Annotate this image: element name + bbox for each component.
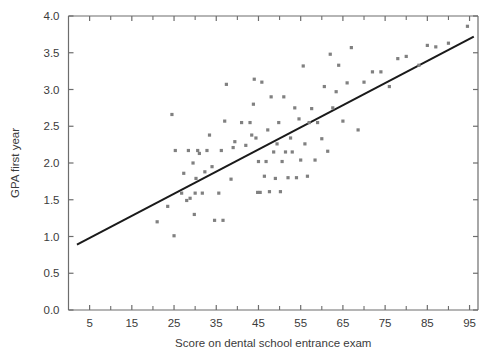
- data-point: [174, 149, 177, 152]
- data-point: [260, 81, 263, 84]
- y-tick-label: 1.0: [44, 231, 60, 243]
- data-point: [250, 133, 253, 136]
- data-point: [185, 199, 188, 202]
- data-point: [286, 176, 289, 179]
- y-tick-label: 2.0: [44, 157, 60, 169]
- data-point: [337, 64, 340, 67]
- data-point: [198, 152, 201, 155]
- data-point: [244, 144, 247, 147]
- data-point: [205, 149, 208, 152]
- plot-group: 51525354555657585950.00.51.01.52.02.53.0…: [9, 10, 478, 349]
- data-point: [263, 175, 266, 178]
- data-point: [326, 150, 329, 153]
- data-point: [187, 149, 190, 152]
- data-point: [196, 149, 199, 152]
- x-tick-label: 5: [86, 317, 92, 329]
- data-point: [293, 106, 296, 109]
- data-point: [254, 136, 257, 139]
- data-point: [188, 197, 191, 200]
- data-point: [264, 160, 267, 163]
- data-point: [281, 160, 284, 163]
- data-point: [277, 121, 280, 124]
- data-point: [335, 90, 338, 93]
- data-point: [225, 83, 228, 86]
- data-point: [331, 106, 334, 109]
- data-point: [291, 150, 294, 153]
- data-point: [302, 64, 305, 67]
- data-point: [223, 120, 226, 123]
- data-point: [266, 128, 269, 131]
- data-point: [191, 161, 194, 164]
- data-point: [203, 170, 206, 173]
- data-point: [170, 113, 173, 116]
- data-point: [253, 78, 256, 81]
- data-point: [297, 117, 300, 120]
- y-tick-label: 1.5: [44, 194, 60, 206]
- x-tick-label: 85: [421, 317, 434, 329]
- data-point: [201, 192, 204, 195]
- y-tick-label: 3.0: [44, 84, 60, 96]
- data-point: [316, 121, 319, 124]
- data-point: [417, 64, 420, 67]
- y-tick-label: 3.5: [44, 47, 60, 59]
- data-point: [434, 45, 437, 48]
- data-point: [213, 219, 216, 222]
- data-point: [313, 158, 316, 161]
- y-tick-label: 2.5: [44, 120, 60, 132]
- data-point: [405, 55, 408, 58]
- data-point: [329, 53, 332, 56]
- x-tick-label: 95: [463, 317, 476, 329]
- data-point: [217, 192, 220, 195]
- data-point: [180, 192, 183, 195]
- data-point: [303, 142, 306, 145]
- data-point: [447, 42, 450, 45]
- data-point: [289, 136, 292, 139]
- y-tick-label: 0.5: [44, 267, 60, 279]
- data-point: [274, 177, 277, 180]
- data-point: [182, 172, 185, 175]
- data-point: [257, 160, 260, 163]
- data-point: [275, 142, 278, 145]
- data-point: [282, 95, 285, 98]
- data-point: [252, 103, 255, 106]
- x-tick-label: 35: [210, 317, 223, 329]
- data-point: [248, 121, 251, 124]
- data-point: [156, 220, 159, 223]
- data-point: [379, 70, 382, 73]
- data-point: [284, 150, 287, 153]
- data-point: [268, 190, 271, 193]
- scatter-plot-canvas: 51525354555657585950.00.51.01.52.02.53.0…: [0, 0, 498, 359]
- data-point: [396, 57, 399, 60]
- data-point: [220, 149, 223, 152]
- data-point: [279, 190, 282, 193]
- data-point: [208, 133, 211, 136]
- data-point: [259, 191, 262, 194]
- data-point: [466, 25, 469, 28]
- data-point: [194, 192, 197, 195]
- x-tick-label: 25: [168, 317, 181, 329]
- data-point: [323, 85, 326, 88]
- data-point: [357, 128, 360, 131]
- x-tick-label: 55: [294, 317, 307, 329]
- data-point: [320, 137, 323, 140]
- data-point: [172, 234, 175, 237]
- x-tick-label: 75: [379, 317, 392, 329]
- data-point: [240, 121, 243, 124]
- data-point: [210, 165, 213, 168]
- data-point: [350, 46, 353, 49]
- data-point: [194, 177, 197, 180]
- data-point: [362, 81, 365, 84]
- x-tick-label: 15: [125, 317, 138, 329]
- data-point: [371, 70, 374, 73]
- data-point: [388, 85, 391, 88]
- data-point: [308, 121, 311, 124]
- regression-line: [77, 37, 474, 245]
- x-tick-label: 65: [337, 317, 350, 329]
- data-point: [306, 175, 309, 178]
- data-point: [272, 150, 275, 153]
- data-point: [229, 178, 232, 181]
- x-tick-label: 45: [252, 317, 265, 329]
- data-point: [193, 213, 196, 216]
- data-point: [221, 219, 224, 222]
- data-point: [426, 44, 429, 47]
